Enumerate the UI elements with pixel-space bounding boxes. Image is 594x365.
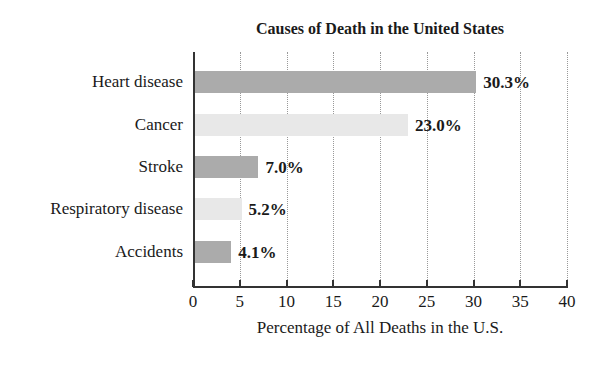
chart-title: Causes of Death in the United States (193, 20, 567, 38)
bar (195, 241, 231, 263)
value-label: 30.3% (483, 73, 530, 93)
tick-mark (332, 280, 334, 287)
tick-label: 20 (365, 292, 395, 312)
category-label: Heart disease (92, 72, 183, 92)
tick-label: 35 (505, 292, 535, 312)
tick-mark (192, 280, 194, 287)
value-label: 23.0% (415, 116, 462, 136)
category-label: Accidents (115, 242, 183, 262)
value-label: 4.1% (238, 243, 276, 263)
tick-mark (519, 280, 521, 287)
tick-mark (473, 280, 475, 287)
bar (195, 198, 242, 220)
tick-label: 30 (459, 292, 489, 312)
category-label: Stroke (139, 157, 183, 177)
tick-mark (426, 280, 428, 287)
category-label: Respiratory disease (50, 199, 183, 219)
tick-label: 40 (552, 292, 582, 312)
tick-label: 25 (412, 292, 442, 312)
tick-mark (286, 280, 288, 287)
tick-label: 15 (318, 292, 348, 312)
value-label: 7.0% (265, 158, 303, 178)
x-axis-label: Percentage of All Deaths in the U.S. (193, 318, 567, 338)
tick-label: 5 (225, 292, 255, 312)
value-label: 5.2% (249, 200, 287, 220)
tick-mark (379, 280, 381, 287)
bar (195, 71, 476, 93)
tick-mark (239, 280, 241, 287)
bar (195, 114, 408, 136)
category-label: Cancer (135, 115, 183, 135)
tick-mark (566, 280, 568, 287)
tick-label: 0 (178, 292, 208, 312)
gridline (567, 52, 568, 286)
bar (195, 156, 258, 178)
tick-label: 10 (272, 292, 302, 312)
